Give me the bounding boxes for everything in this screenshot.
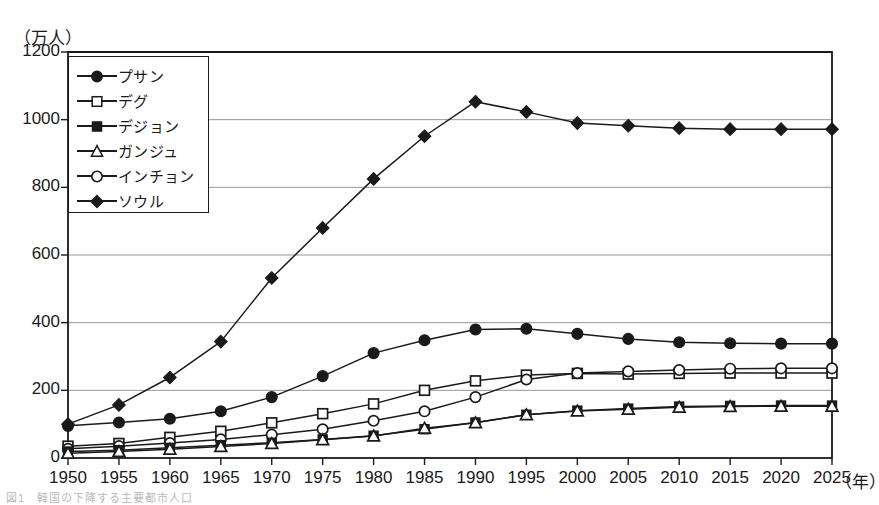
series-line-デジョン	[68, 406, 832, 452]
x-tick-label-2015: 2015	[702, 468, 758, 488]
datapoint-インチョン-1995	[521, 374, 531, 384]
series-ガンジュ	[62, 400, 838, 458]
datapoint-インチョン-2025	[827, 363, 837, 373]
x-tick-label-1970: 1970	[244, 468, 300, 488]
series-インチョン	[63, 363, 837, 454]
datapoint-インチョン-2005	[623, 366, 633, 376]
legend-label-incheon: インチョン	[118, 165, 195, 186]
legend-marker-open-triangle	[76, 141, 118, 161]
x-tick-label-1950: 1950	[40, 468, 96, 488]
datapoint-デグ-1975	[318, 409, 328, 419]
datapoint-インチョン-2000	[572, 368, 582, 378]
y-tick-label-1200: 1200	[2, 41, 60, 61]
legend-item-daegu: デグ	[69, 88, 208, 113]
datapoint-ソウル-2010	[673, 122, 686, 135]
y-tick-label-400: 400	[2, 312, 60, 332]
datapoint-デグ-1970	[267, 418, 277, 428]
y-tick-label-1000: 1000	[2, 109, 60, 129]
datapoint-デグ-1985	[420, 385, 430, 395]
x-tick-label-1995: 1995	[498, 468, 554, 488]
series-line-インチョン	[68, 368, 832, 449]
datapoint-プサン-1980	[368, 348, 379, 359]
datapoint-プサン-1950	[63, 420, 74, 431]
datapoint-ソウル-1990	[469, 95, 482, 108]
datapoint-プサン-2015	[725, 338, 736, 349]
legend-marker-filled-diamond	[76, 191, 118, 211]
legend-label-daegu: デグ	[118, 90, 149, 111]
datapoint-ソウル-2015	[724, 123, 737, 136]
legend-item-busan: プサン	[69, 63, 208, 88]
datapoint-ソウル-2005	[622, 119, 635, 132]
x-tick-label-1960: 1960	[142, 468, 198, 488]
datapoint-インチョン-1985	[419, 406, 429, 416]
y-tick-label-600: 600	[2, 244, 60, 264]
x-axis-unit-label: （年）	[835, 468, 879, 493]
datapoint-プサン-2000	[572, 328, 583, 339]
datapoint-プサン-1990	[470, 324, 481, 335]
legend-label-daejeon: デジョン	[118, 115, 179, 136]
x-tick-label-1990: 1990	[447, 468, 503, 488]
legend-marker-filled-square	[76, 116, 118, 136]
x-tick-label-2020: 2020	[753, 468, 809, 488]
datapoint-インチョン-2015	[725, 363, 735, 373]
datapoint-ソウル-1995	[520, 106, 533, 119]
datapoint-ソウル-1960	[164, 371, 177, 384]
series-line-プサン	[68, 329, 832, 426]
legend-label-gwangju: ガンジュ	[118, 140, 178, 161]
legend-marker-open-circle	[76, 166, 118, 186]
datapoint-プサン-1975	[317, 371, 328, 382]
legend-label-busan: プサン	[118, 65, 164, 86]
legend-item-gwangju: ガンジュ	[69, 138, 208, 163]
figure-caption: 図1 韓国の下降する主要都市人口	[6, 489, 193, 505]
series-line-ガンジュ	[68, 406, 832, 453]
datapoint-プサン-1985	[419, 335, 430, 346]
legend-marker-filled-circle	[76, 66, 118, 86]
legend-item-incheon: インチョン	[69, 163, 208, 188]
datapoint-プサン-2005	[623, 334, 634, 345]
legend-label-seoul: ソウル	[118, 190, 164, 211]
datapoint-インチョン-2020	[776, 363, 786, 373]
datapoint-ソウル-1955	[113, 399, 126, 412]
datapoint-プサン-1970	[266, 392, 277, 403]
legend-item-seoul: ソウル	[69, 188, 208, 213]
y-tick-label-0: 0	[2, 447, 60, 467]
series-line-デグ	[68, 373, 832, 446]
datapoint-ソウル-2025	[826, 123, 839, 136]
x-tick-label-1985: 1985	[397, 468, 453, 488]
x-tick-label-2010: 2010	[651, 468, 707, 488]
datapoint-プサン-1955	[114, 417, 125, 428]
x-tick-label-1975: 1975	[295, 468, 351, 488]
datapoint-インチョン-2010	[674, 365, 684, 375]
legend-item-daejeon: デジョン	[69, 113, 208, 138]
series-デグ	[63, 368, 837, 451]
x-tick-label-1980: 1980	[346, 468, 402, 488]
datapoint-ソウル-2000	[571, 117, 584, 130]
series-プサン	[63, 323, 838, 431]
x-tick-label-2005: 2005	[600, 468, 656, 488]
chart-legend: プサン デグ デジョン	[68, 56, 209, 213]
datapoint-デグ-1980	[369, 399, 379, 409]
datapoint-ソウル-2020	[775, 123, 788, 136]
series-デジョン	[63, 401, 836, 456]
datapoint-プサン-2020	[776, 338, 787, 349]
y-tick-label-200: 200	[2, 379, 60, 399]
datapoint-プサン-1960	[164, 413, 175, 424]
datapoint-プサン-1965	[215, 406, 226, 417]
datapoint-インチョン-1990	[470, 392, 480, 402]
x-tick-label-1955: 1955	[91, 468, 147, 488]
x-tick-label-1965: 1965	[193, 468, 249, 488]
legend-marker-open-square	[76, 91, 118, 111]
datapoint-プサン-1995	[521, 323, 532, 334]
y-tick-label-800: 800	[2, 176, 60, 196]
datapoint-デグ-1990	[471, 376, 481, 386]
datapoint-プサン-2025	[827, 338, 838, 349]
datapoint-インチョン-1980	[368, 416, 378, 426]
datapoint-プサン-2010	[674, 337, 685, 348]
x-tick-label-2000: 2000	[549, 468, 605, 488]
